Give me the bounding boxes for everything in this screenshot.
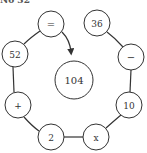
number-ring-puzzle: 104 = 36 − 10 x 2 + 52 (0, 0, 147, 153)
ring-node-2: 2 (38, 124, 64, 150)
link-equals-52 (24, 31, 40, 44)
node-label: 36 (91, 19, 103, 29)
ring-node-52: 52 (2, 41, 28, 67)
ring-node-equals: = (38, 11, 64, 37)
ring-node-plus: + (5, 92, 31, 118)
arrow-icon (62, 32, 71, 52)
link-plus-2 (24, 117, 39, 131)
node-label: − (127, 52, 135, 63)
node-label: x (93, 133, 98, 143)
link-10-minus (130, 70, 131, 92)
ring-node-10: 10 (116, 92, 142, 118)
link-x-10 (106, 115, 121, 128)
link-minus-36 (107, 32, 123, 47)
center-value: 104 (64, 75, 83, 86)
ring-node-times: x (83, 124, 109, 150)
node-label: 52 (9, 50, 20, 60)
ring-node-minus: − (118, 44, 144, 70)
node-label: 2 (48, 133, 54, 143)
link-52-plus (13, 67, 14, 92)
node-label: + (14, 101, 22, 111)
node-label: = (47, 19, 55, 30)
node-label: 10 (123, 101, 135, 111)
center-node: 104 (55, 61, 93, 99)
ring-node-36: 36 (84, 10, 110, 36)
